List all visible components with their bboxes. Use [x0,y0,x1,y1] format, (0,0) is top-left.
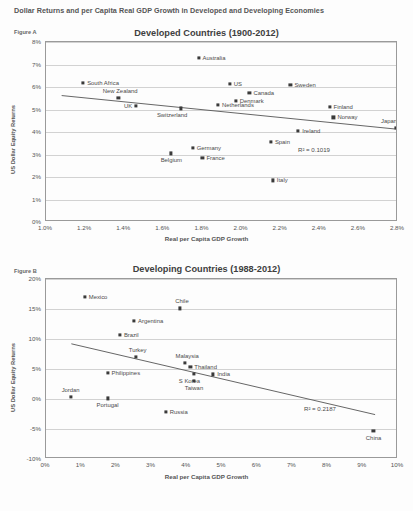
data-point-marker [106,397,109,400]
data-point-marker [248,91,251,94]
data-point-label: Argentina [138,318,163,324]
data-point-marker [212,373,215,376]
data-point-marker [269,141,272,144]
data-point-marker [271,179,274,182]
x-axis-tick: 2.0% [233,224,247,231]
document-title: Dollar Returns and per Capita Real GDP G… [14,6,324,15]
data-point-marker [189,365,192,368]
data-point-marker [134,105,137,108]
y-axis-tick: 0% [0,395,41,402]
data-point-marker [332,116,335,119]
data-point-label: S Korea [179,378,200,384]
x-axis-tick: 4% [181,461,190,468]
data-point-label: Thailand [194,364,217,370]
chart-figure-b: Developing Countries (1988-2012) MexicoC… [0,262,413,494]
data-point-label: Netherlands [222,102,254,108]
x-axis-tick: 2.8% [390,224,404,231]
data-point-label: Canada [253,90,274,96]
data-point-marker [164,411,167,414]
chart-a-plot-area: AustraliaSouth AfricaUSSwedenCanadaNew Z… [45,41,397,221]
data-point-marker [118,333,121,336]
data-point-marker [328,106,331,109]
data-point-marker [216,103,219,106]
y-axis-tick: 4% [0,128,41,135]
chart-a-title: Developed Countries (1900-2012) [0,28,413,38]
x-axis-tick: 1.2% [77,224,91,231]
x-axis-tick: 1.0% [38,224,52,231]
document-caption [8,501,405,509]
data-point-label: Norway [337,114,357,120]
y-axis-tick: 7% [0,60,41,67]
chart-b-title: Developing Countries (1988-2012) [0,264,413,274]
y-axis-tick: -5% [0,425,41,432]
x-axis-tick: 2.2% [273,224,287,231]
data-point-label: India [217,371,230,377]
data-point-label: Mexico [89,294,108,300]
data-point-marker [289,83,292,86]
y-axis-tick: 6% [0,83,41,90]
y-axis-tick: 20% [0,275,41,282]
data-point-label: Portugal [97,402,119,408]
x-axis-tick: 2% [111,461,120,468]
y-axis-tick: 5% [0,105,41,112]
r-squared-annotation: R² = 0.2187 [304,405,336,412]
data-point-marker [134,355,137,358]
data-point-label: South Africa [87,80,119,86]
data-point-label: Japan [381,118,397,124]
x-axis-tick: 1.8% [194,224,208,231]
data-point-label: Australia [203,55,226,61]
data-point-marker [178,307,181,310]
x-axis-tick: 6% [252,461,261,468]
chart-a-x-axis-label: Real per Capita GDP Growth [0,235,413,242]
chart-b-x-axis-label: Real per Capita GDP Growth [0,473,413,480]
x-axis-tick: 8% [322,461,331,468]
data-point-label: New Zealand [103,88,138,94]
data-point-label: Germany [197,145,221,151]
x-axis-tick: 3% [146,461,155,468]
data-point-marker [183,361,186,364]
data-point-marker [132,319,135,322]
y-axis-tick: 0% [0,218,41,225]
data-point-label: Spain [275,139,290,145]
data-point-marker [297,129,300,132]
x-axis-tick: 1% [76,461,85,468]
x-axis-tick: 2.6% [351,224,365,231]
data-point-label: US [234,81,242,87]
x-axis-tick: 10% [391,461,403,468]
data-point-label: Finland [334,104,353,110]
data-point-marker [228,82,231,85]
data-point-marker [117,97,120,100]
data-point-marker [197,56,200,59]
data-point-label: Switzerland [157,112,187,118]
data-point-label: Malaysia [176,353,199,359]
x-axis-tick: 0% [41,461,50,468]
y-axis-tick: 3% [0,150,41,157]
data-point-marker [394,126,397,129]
y-axis-tick: 5% [0,365,41,372]
data-point-marker [170,152,173,155]
data-point-label: UK [124,103,132,109]
data-point-label: Sweden [294,82,315,88]
x-axis-tick: 2.4% [312,224,326,231]
x-axis-tick: 5% [217,461,226,468]
data-point-label: Chile [175,298,188,304]
y-axis-tick: 10% [0,335,41,342]
data-point-label: France [206,155,224,161]
chart-a-y-axis-label: US Dollar Equity Returns [10,105,16,174]
trendline [46,42,397,221]
r-squared-annotation: R² = 0.1019 [298,146,330,153]
chart-figure-a: Developed Countries (1900-2012) Australi… [0,26,413,251]
data-point-label: China [366,435,381,441]
x-axis-tick: 1.4% [116,224,130,231]
chart-b-plot-area: MexicoChileArgentinaBrazilTurkeyMalaysia… [45,278,397,458]
data-point-marker [191,146,194,149]
y-axis-tick: 1% [0,195,41,202]
data-point-marker [83,295,86,298]
data-point-marker [69,396,72,399]
data-point-label: Brazil [124,332,139,338]
y-axis-tick: 2% [0,173,41,180]
data-point-marker [106,372,109,375]
trendline [46,279,397,458]
data-point-label: Taiwan [185,385,203,391]
y-axis-tick: -10% [0,455,41,462]
